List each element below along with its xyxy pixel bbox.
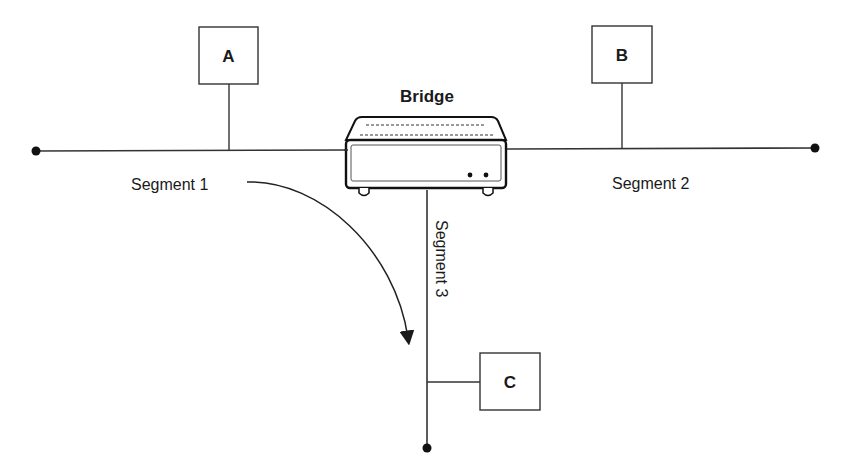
segment-3-line (423, 190, 432, 453)
node-a-label: A (222, 47, 234, 66)
bridge-device-icon (344, 117, 506, 196)
segment-3-label: Segment 3 (433, 220, 450, 297)
bridge-led-1 (468, 173, 473, 178)
segment-1-line (32, 147, 351, 156)
node-c-label: C (504, 373, 516, 392)
network-diagram: A B C Bridge Segment 1 Segment 2 Segment… (0, 0, 843, 475)
bridge-led-2 (484, 173, 489, 178)
flow-arrow-icon (247, 182, 408, 338)
node-b-label: B (616, 46, 628, 65)
node-a: A (199, 27, 258, 151)
bridge-label: Bridge (400, 87, 454, 106)
segment-3-terminator-dot (423, 444, 432, 453)
segment-2-terminator-dot (811, 144, 820, 153)
node-c: C (427, 353, 540, 410)
segment-1-label: Segment 1 (131, 176, 208, 193)
node-b: B (592, 26, 652, 149)
segment-2-line (503, 144, 820, 153)
segment-2-label: Segment 2 (612, 175, 689, 192)
segment-1-terminator-dot (32, 147, 41, 156)
